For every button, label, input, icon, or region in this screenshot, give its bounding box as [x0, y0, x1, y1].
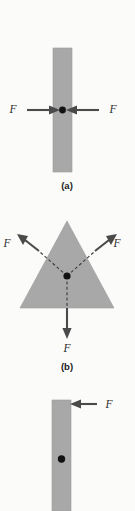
panel-c: F: [52, 398, 113, 511]
panel-b-force-up-left-arrow: [17, 234, 39, 251]
panel-a-force-left-label: F: [8, 103, 17, 115]
panel-a-force-right-label: F: [108, 103, 117, 115]
panel-c-force-label: F: [104, 398, 113, 410]
panel-c-force-arrow: [70, 399, 97, 408]
panel-b-caption: (b): [61, 361, 73, 372]
panel-b-force-up-left-label: F: [2, 237, 11, 249]
panel-a-caption: (a): [61, 180, 73, 191]
panel-a: F F (a): [8, 48, 117, 191]
force-diagram-figure: F F (a) F: [0, 0, 135, 511]
panel-b: F F F (b): [2, 221, 121, 372]
panel-c-pivot-dot: [58, 455, 65, 462]
panel-a-pivot-dot: [59, 107, 66, 114]
panel-b-force-down-label: F: [62, 342, 71, 354]
figure-canvas: F F (a) F: [0, 0, 135, 511]
panel-b-force-up-right-label: F: [112, 237, 121, 249]
panel-b-pivot-dot: [63, 272, 70, 279]
panel-b-force-down-arrow: [62, 308, 71, 339]
